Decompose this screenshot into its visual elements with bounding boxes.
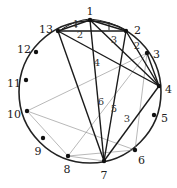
edge-label-13-1: 1 bbox=[73, 18, 79, 29]
chord-diagram: 12324653 12345678910111213 bbox=[0, 0, 177, 188]
vertex-label-9: 9 bbox=[35, 145, 42, 158]
thin-edge-10-3 bbox=[27, 53, 147, 111]
edge-label-1-4: 3 bbox=[111, 34, 117, 45]
vertex-12 bbox=[34, 50, 38, 54]
vertex-3 bbox=[145, 51, 149, 55]
edge-label-1-7: 4 bbox=[94, 57, 100, 68]
vertex-11 bbox=[24, 78, 28, 82]
edge-label-2-7: 5 bbox=[111, 103, 117, 114]
thin-edge-10-6 bbox=[27, 111, 135, 150]
vertex-4 bbox=[157, 84, 161, 88]
vertex-label-2: 2 bbox=[134, 24, 141, 37]
vertex-6 bbox=[133, 148, 137, 152]
vertex-label-12: 12 bbox=[17, 43, 31, 56]
thick-edge-2-7 bbox=[104, 31, 126, 161]
vertex-10 bbox=[25, 109, 29, 113]
vertex-label-7: 7 bbox=[101, 169, 108, 182]
vertex-label-10: 10 bbox=[7, 108, 21, 121]
vertex-13 bbox=[56, 29, 60, 33]
vertex-label-13: 13 bbox=[39, 23, 53, 36]
edge-label-2-4: 2 bbox=[134, 40, 140, 51]
edge-label-13-7: 6 bbox=[98, 96, 104, 107]
vertex-label-3: 3 bbox=[153, 48, 160, 61]
edge-label-4-7: 3 bbox=[124, 113, 130, 124]
vertex-label-6: 6 bbox=[138, 154, 145, 167]
vertex-label-5: 5 bbox=[161, 112, 168, 125]
vertex-2 bbox=[124, 29, 128, 33]
vertex-label-11: 11 bbox=[7, 77, 21, 90]
vertex-label-8: 8 bbox=[64, 163, 71, 176]
vertex-9 bbox=[41, 136, 45, 140]
edge-label-13-2: 2 bbox=[77, 29, 83, 40]
thick-edge-13-4 bbox=[58, 31, 159, 86]
vertex-7 bbox=[102, 159, 106, 163]
vertex-8 bbox=[66, 154, 70, 158]
vertex-5 bbox=[152, 113, 156, 117]
vertex-1 bbox=[88, 18, 92, 22]
vertex-label-1: 1 bbox=[87, 5, 94, 18]
vertex-label-4: 4 bbox=[165, 83, 172, 96]
